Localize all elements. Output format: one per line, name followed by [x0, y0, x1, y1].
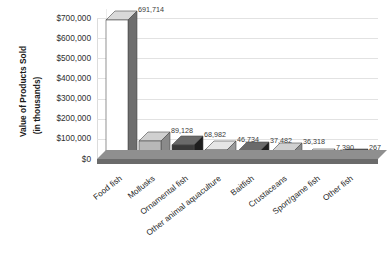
bar-chart: Value of Products Sold (in thousands) $0…	[0, 0, 392, 261]
x-axis-label-text: Other fish	[321, 174, 355, 203]
x-axis-label-text: Baitfish	[229, 174, 256, 198]
x-axis-label-4: Baitfish	[250, 157, 277, 181]
x-axis-label-text: Mollusks	[126, 174, 157, 201]
x-axis-label-text: Food fish	[92, 174, 124, 202]
x-axis-category-labels: Food fishMollusksOrnamental fishOther an…	[0, 0, 392, 261]
x-axis-label-1: Mollusks	[151, 154, 182, 181]
x-axis-label-7: Other fish	[349, 152, 383, 181]
